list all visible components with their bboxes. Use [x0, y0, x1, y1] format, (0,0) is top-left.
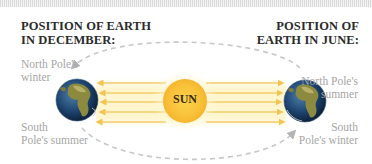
label-june-north: North Pole's summer — [301, 75, 358, 101]
label-line: summer — [301, 88, 358, 101]
label-june-south: South Pole's winter — [299, 121, 358, 147]
label-december-north: North Pole's winter — [21, 58, 78, 84]
label-line: South — [299, 121, 358, 134]
heading-june: POSITION OF EARTH IN JUNE: — [257, 19, 359, 47]
heading-june-line2: EARTH IN JUNE: — [257, 33, 359, 47]
heading-december: POSITION OF EARTH IN DECEMBER: — [21, 19, 151, 47]
label-line: North Pole's — [301, 75, 358, 88]
label-line: Pole's winter — [299, 134, 358, 147]
label-december-south: South Pole's summer — [21, 121, 88, 147]
label-line: winter — [21, 71, 78, 84]
label-line: South — [21, 121, 88, 134]
earth-december-icon — [56, 79, 98, 121]
label-line: Pole's summer — [21, 134, 88, 147]
label-line: North Pole's — [21, 58, 78, 71]
heading-june-line1: POSITION OF — [257, 19, 359, 33]
heading-december-line1: POSITION OF EARTH — [21, 19, 151, 33]
heading-december-line2: IN DECEMBER: — [21, 33, 151, 47]
sun-label: SUN — [163, 92, 207, 107]
